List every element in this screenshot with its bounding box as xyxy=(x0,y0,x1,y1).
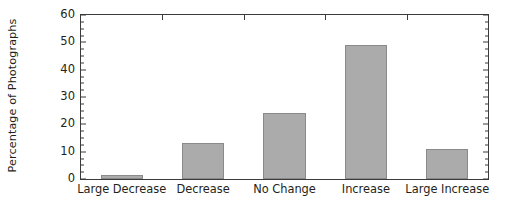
y-axis-title: Percentage of Photographs xyxy=(0,0,26,190)
axis-tick-right xyxy=(485,76,488,77)
axis-tick-right xyxy=(485,131,488,132)
axis-tick-left xyxy=(81,158,84,159)
x-axis-tick-label: Increase xyxy=(342,184,390,195)
axis-tick-top xyxy=(244,15,245,20)
axis-tick-right xyxy=(483,15,488,16)
axis-tick-right xyxy=(483,151,488,152)
axis-tick-right xyxy=(485,117,488,118)
axis-tick-right xyxy=(485,28,488,29)
axis-tick-right xyxy=(485,165,488,166)
x-axis-tick-label: Large Increase xyxy=(405,184,489,195)
axis-tick-left xyxy=(81,117,84,118)
axis-tick-top xyxy=(325,15,326,20)
axis-tick-right xyxy=(485,49,488,50)
axis-tick-left xyxy=(81,28,84,29)
axis-tick-right xyxy=(483,97,488,98)
axis-tick-left xyxy=(81,110,84,111)
x-axis-tick-label: No Change xyxy=(253,184,316,195)
bar xyxy=(182,143,224,179)
plot-inner-surface xyxy=(81,15,488,179)
axis-tick-left xyxy=(81,69,86,70)
axis-tick-right xyxy=(485,21,488,22)
axis-tick-right xyxy=(485,172,488,173)
axis-tick-right xyxy=(483,69,488,70)
bar xyxy=(101,175,143,179)
axis-tick-right xyxy=(485,103,488,104)
axis-tick-right xyxy=(485,35,488,36)
axis-tick-right xyxy=(485,144,488,145)
axis-tick-left xyxy=(81,124,86,125)
axis-tick-left xyxy=(81,35,84,36)
axis-tick-right xyxy=(485,56,488,57)
y-axis-tick-label: 40 xyxy=(30,64,75,76)
axis-tick-left xyxy=(81,62,84,63)
x-axis-tick-labels: Large DecreaseDecreaseNo ChangeIncreaseL… xyxy=(80,184,489,206)
x-axis-tick-label: Large Decrease xyxy=(77,184,166,195)
axis-tick-top xyxy=(407,15,408,20)
axis-tick-left xyxy=(81,83,84,84)
y-axis-tick-label: 10 xyxy=(30,146,75,158)
y-axis-tick-label: 0 xyxy=(30,173,75,185)
axis-tick-right xyxy=(485,158,488,159)
axis-tick-left xyxy=(81,165,84,166)
axis-tick-left xyxy=(81,49,84,50)
axis-tick-left xyxy=(81,42,86,43)
axis-tick-left xyxy=(81,56,84,57)
axis-tick-right xyxy=(485,110,488,111)
axis-tick-right xyxy=(485,138,488,139)
bar xyxy=(345,45,387,179)
axis-tick-left xyxy=(81,138,84,139)
axis-tick-top xyxy=(162,15,163,20)
axis-tick-right xyxy=(485,62,488,63)
axis-tick-right xyxy=(485,83,488,84)
axis-tick-right xyxy=(483,124,488,125)
axis-tick-left xyxy=(81,103,84,104)
axis-tick-left xyxy=(81,151,86,152)
y-axis-tick-labels: 0102030405060 xyxy=(30,14,75,180)
bar xyxy=(263,113,305,179)
y-axis-tick-label: 60 xyxy=(30,9,75,21)
axis-tick-left xyxy=(81,21,84,22)
axis-tick-right xyxy=(483,42,488,43)
axis-tick-left xyxy=(81,15,86,16)
axis-tick-left xyxy=(81,76,84,77)
axis-tick-left xyxy=(81,97,86,98)
bar xyxy=(426,149,468,179)
y-axis-title-label: Percentage of Photographs xyxy=(7,18,20,172)
y-axis-tick-label: 30 xyxy=(30,91,75,103)
x-axis-tick-label: Decrease xyxy=(176,184,229,195)
axis-tick-right xyxy=(485,90,488,91)
y-axis-tick-label: 20 xyxy=(30,119,75,131)
axis-tick-left xyxy=(81,144,84,145)
axis-tick-left xyxy=(81,90,84,91)
bar-chart: Percentage of Photographs 0102030405060 … xyxy=(0,0,516,220)
axis-tick-left xyxy=(81,131,84,132)
axis-tick-left xyxy=(81,172,84,173)
axis-tick-right xyxy=(483,179,488,180)
y-axis-tick-label: 50 xyxy=(30,37,75,49)
plot-area xyxy=(80,14,489,180)
axis-tick-left xyxy=(81,179,86,180)
